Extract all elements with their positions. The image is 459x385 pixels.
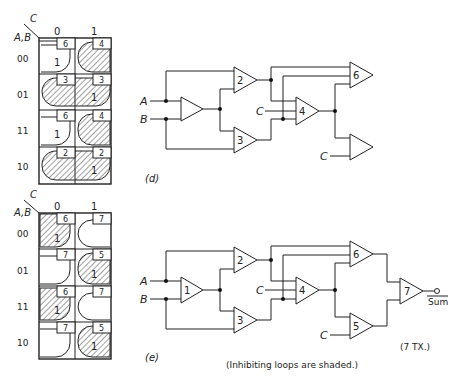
input-c-label: C [256, 105, 264, 118]
cell-gate: 3 [63, 76, 68, 85]
cell-value: 1 [91, 269, 97, 280]
cell-gate: 6 [63, 40, 68, 49]
gate-label: 3 [237, 315, 243, 326]
gate-out [350, 134, 373, 160]
input-b-label: B [140, 293, 148, 306]
gate-label: 6 [353, 249, 359, 260]
cell-value: 1 [91, 165, 97, 176]
kmap-row-header: 10 [17, 338, 29, 348]
cell-gate: 7 [63, 324, 68, 333]
cell-value: 1 [91, 92, 97, 103]
cell-value: 1 [54, 233, 60, 244]
gate-label: 5 [353, 321, 359, 332]
figure-canvas: C A,B 0 1 00 01 11 10 6 4 3 3 6 4 2 [0, 0, 459, 385]
input-c-label: C [320, 150, 328, 163]
cell-gate: 7 [63, 251, 68, 260]
gate-label: 4 [299, 106, 305, 117]
panel-label-d: (d) [145, 173, 159, 184]
output-label-sum: Sum [428, 297, 448, 307]
input-a-label: A [139, 95, 148, 108]
cell-value: 1 [54, 57, 60, 68]
cell-gate: 3 [99, 76, 104, 85]
cell-gate: 6 [63, 288, 68, 297]
output-terminal [435, 289, 440, 294]
cell-gate: 5 [99, 324, 104, 333]
kmap-row-header: 01 [17, 90, 28, 100]
transistor-count: (7 TX.) [400, 342, 430, 352]
kmap-col-header: 1 [91, 26, 97, 37]
cell-gate: 6 [63, 215, 68, 224]
kmap-row-header: 00 [17, 229, 29, 239]
gate-1 [181, 97, 203, 121]
shading-note: (Inhibiting loops are shaded.) [226, 360, 358, 370]
kmap-row-header: 11 [17, 302, 28, 312]
cell-value: 1 [54, 129, 60, 140]
gate-label: 4 [299, 285, 305, 296]
gate-label: 2 [237, 255, 243, 266]
kmap-row-header: 10 [17, 162, 29, 172]
input-a-label: A [139, 275, 148, 288]
gate-label: 7 [404, 286, 410, 297]
kmap-row-var: A,B [13, 207, 31, 218]
cell-gate: 6 [63, 112, 68, 121]
cell-gate: 5 [99, 251, 104, 260]
cell-gate: 7 [99, 215, 104, 224]
kmap-row-header: 00 [17, 54, 29, 64]
kmap-col-header: 0 [54, 201, 60, 212]
kmap-col-header: 1 [91, 201, 97, 212]
gate-label: 6 [353, 70, 359, 81]
cell-gate: 7 [99, 288, 104, 297]
gate-label: 1 [184, 285, 190, 296]
cell-gate: 4 [99, 112, 104, 121]
input-c-label: C [320, 329, 328, 342]
cell-value: 1 [54, 305, 60, 316]
cell-gate: 2 [99, 149, 104, 158]
cell-value: 1 [91, 341, 97, 352]
kmap-col-var: C [30, 13, 37, 24]
cell-gate: 4 [99, 40, 104, 49]
kmap-row-header: 01 [17, 266, 28, 276]
input-c-label: C [256, 284, 264, 297]
gate-label: 2 [237, 75, 243, 86]
gate-label: 3 [237, 135, 243, 146]
kmap-row-var: A,B [13, 32, 31, 43]
cell-gate: 2 [63, 149, 68, 158]
kmap-row-header: 11 [17, 126, 28, 136]
kmap-col-header: 0 [54, 26, 60, 37]
panel-label-e: (e) [145, 352, 159, 363]
kmap-col-var: C [30, 189, 37, 200]
input-b-label: B [140, 113, 148, 126]
